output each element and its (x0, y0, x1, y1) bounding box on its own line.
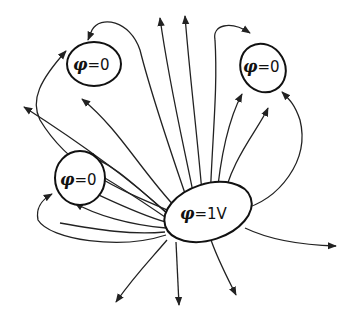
conductor-top-left: φ=0 (67, 42, 121, 86)
conductor-left: φ=0 (55, 151, 105, 205)
conductor-source: φ=1V (157, 171, 260, 252)
svg-text:φ=0: φ=0 (73, 55, 110, 74)
svg-text:φ=1V: φ=1V (180, 204, 228, 223)
svg-text:φ=0: φ=0 (60, 170, 97, 189)
field-lines-diagram: φ=0 φ=0 φ=0 φ=1V (0, 0, 351, 314)
conductor-top-right: φ=0 (231, 35, 294, 100)
svg-text:φ=0: φ=0 (243, 57, 280, 76)
